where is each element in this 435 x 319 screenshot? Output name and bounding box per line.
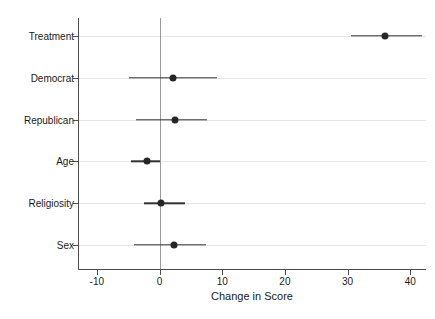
category-label-treatment: Treatment <box>29 31 74 42</box>
x-tick-mark <box>160 270 161 275</box>
coefficient-plot-figure: -10010203040 TreatmentDemocratRepublican… <box>0 0 435 319</box>
x-tick-label: 40 <box>390 276 430 287</box>
point-estimate <box>172 116 179 123</box>
x-tick-label: 0 <box>140 276 180 287</box>
category-label-religiosity: Religiosity <box>28 198 74 209</box>
x-tick-mark <box>410 270 411 275</box>
x-tick-mark <box>348 270 349 275</box>
category-label-republican: Republican <box>24 114 74 125</box>
gridline <box>79 203 426 204</box>
x-tick-label: 10 <box>202 276 242 287</box>
category-label-democrat: Democrat <box>31 72 74 83</box>
x-axis-line <box>78 269 426 270</box>
point-estimate <box>170 74 177 81</box>
x-axis-title: Change in Score <box>78 290 426 302</box>
point-estimate <box>143 158 150 165</box>
x-tick-label: 20 <box>265 276 305 287</box>
x-tick-mark <box>285 270 286 275</box>
gridline <box>79 245 426 246</box>
x-tick-label: 30 <box>328 276 368 287</box>
x-tick-label: -10 <box>77 276 117 287</box>
point-estimate <box>170 242 177 249</box>
x-tick-mark <box>222 270 223 275</box>
point-estimate <box>382 33 389 40</box>
zero-reference-line <box>160 18 161 270</box>
category-label-age: Age <box>56 156 74 167</box>
x-tick-mark <box>97 270 98 275</box>
y-axis-line <box>78 18 79 270</box>
gridline <box>79 120 426 121</box>
category-label-sex: Sex <box>57 240 74 251</box>
point-estimate <box>158 200 165 207</box>
